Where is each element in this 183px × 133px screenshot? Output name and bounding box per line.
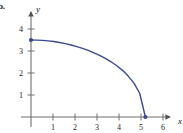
chart-figure: b. 1 2 3 4 5 [0,0,183,133]
x-tick-label-6: 6 [161,123,165,132]
data-point [143,115,147,119]
chart-plot: 1 2 3 4 5 6 1 2 3 4 y x [0,0,183,133]
x-axis-label: x [177,116,182,126]
x-tick-label-3: 3 [95,123,99,132]
x-tick-label-1: 1 [51,123,55,132]
x-tick-label-5: 5 [139,123,143,132]
y-tick-label-3: 3 [19,47,23,56]
y-axis-label: y [35,4,40,14]
data-point [29,38,33,42]
y-tick-label-4: 4 [19,25,23,34]
data-curve [31,40,145,117]
y-tick-label-1: 1 [19,91,23,100]
y-tick-label-2: 2 [19,69,23,78]
x-tick-label-4: 4 [117,123,121,132]
x-tick-label-2: 2 [73,123,77,132]
